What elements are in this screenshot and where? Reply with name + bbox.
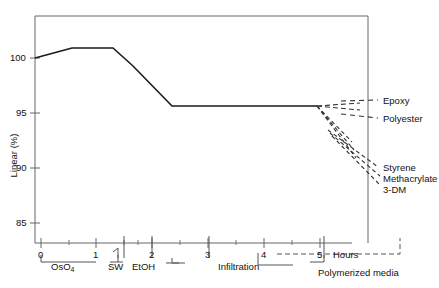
phase-label-etoh: EtOH xyxy=(132,262,155,272)
legend-line-methacrylate xyxy=(330,133,380,176)
legend-line-styrene xyxy=(328,130,378,167)
x-tick-label-0: 0 xyxy=(38,250,43,260)
chart-root: Linear (%) 100 95 90 85 0 1 2 3 4 5 Hour… xyxy=(0,0,439,288)
x-tick-label-4: 4 xyxy=(261,250,266,260)
x-axis-unit-label: Hours xyxy=(333,250,358,260)
x-tick-label-5: 5 xyxy=(317,250,322,260)
branch-line-polyester xyxy=(317,106,360,110)
x-tick-label-2: 2 xyxy=(149,250,154,260)
phase-label-infiltration: Infiltration xyxy=(218,262,259,272)
main-data-line xyxy=(35,48,317,106)
legend-label-polyester: Polyester xyxy=(383,114,423,124)
y-tick-label-100: 100 xyxy=(10,53,26,63)
legend-line-polyester xyxy=(341,114,378,118)
chart-canvas xyxy=(0,0,439,288)
phase-label-sw: SW xyxy=(108,262,123,272)
branch-line-epoxy xyxy=(317,103,360,106)
legend-label-styrene: Styrene xyxy=(383,163,416,173)
y-tick-label-90: 90 xyxy=(16,163,27,173)
branch-line-3dm xyxy=(317,106,356,158)
legend-line-3dm xyxy=(332,136,381,186)
legend-label-3dm: 3-DM xyxy=(383,185,406,195)
phase-label-polymerized-media: Polymerized media xyxy=(318,268,399,278)
x-tick-label-3: 3 xyxy=(205,250,210,260)
legend-label-methacrylate: Methacrylate xyxy=(383,174,437,184)
y-tick-label-95: 95 xyxy=(16,108,27,118)
phase-bracket-etoh-right xyxy=(172,258,185,263)
legend-line-epoxy xyxy=(341,100,378,101)
legend-label-epoxy: Epoxy xyxy=(383,96,409,106)
y-axis-title: Linear (%) xyxy=(8,126,19,186)
phase-label-oso4: OsO4 xyxy=(51,262,74,272)
phase-bracket-sw-left xyxy=(113,248,118,258)
x-tick-label-1: 1 xyxy=(93,250,98,260)
y-tick-label-85: 85 xyxy=(16,218,27,228)
